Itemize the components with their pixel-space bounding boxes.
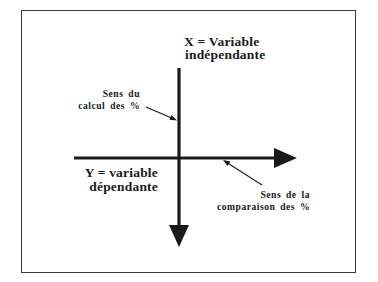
calc-direction-label-line2: calcul des %: [78, 100, 140, 112]
comparison-direction-label: Sens de la comparaison des %: [217, 189, 310, 213]
comparison-direction-pointer-icon: [223, 160, 262, 185]
x-variable-label: X = Variable indépendante: [184, 35, 265, 61]
y-variable-label: Y = variable dépendante: [85, 166, 158, 194]
comparison-direction-label-line2: comparaison des %: [217, 201, 310, 213]
y-variable-label-line1: Y = variable: [85, 166, 158, 180]
calc-direction-label-line1: Sens du: [78, 88, 140, 100]
calc-direction-label: Sens du calcul des %: [78, 88, 140, 112]
x-variable-label-line2: indépendante: [184, 48, 265, 61]
y-variable-label-line2: dépendante: [85, 180, 158, 194]
comparison-direction-label-line1: Sens de la: [217, 189, 310, 201]
calc-direction-pointer-icon: [146, 107, 177, 121]
